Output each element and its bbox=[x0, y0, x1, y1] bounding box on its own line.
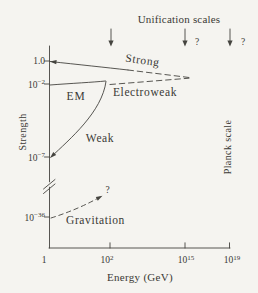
planck-scale-label: Planck scale bbox=[222, 120, 233, 175]
y-tick-10^-36-base: 10 bbox=[25, 213, 35, 223]
x-tick-10^15-base: 10 bbox=[178, 255, 188, 265]
y-tick-10^-36-exponent: −36 bbox=[34, 211, 45, 219]
y-tick-10^-7-base: 10 bbox=[28, 153, 38, 163]
gravitation-question-mark: ? bbox=[106, 185, 110, 195]
weak-label: Weak bbox=[86, 132, 114, 144]
x-tick-1: 1 bbox=[42, 255, 47, 265]
x-tick-10^2-exponent: 2 bbox=[110, 254, 114, 262]
y-tick-10^-2-exponent: −2 bbox=[38, 78, 46, 86]
em-label: EM bbox=[66, 90, 85, 102]
unification-scales-heading: Unification scales bbox=[138, 13, 221, 25]
x-axis-title: Energy (GeV) bbox=[107, 271, 173, 284]
y-tick-1.0: 1.0 bbox=[33, 56, 45, 66]
electroweak-label: Electroweak bbox=[113, 86, 177, 98]
y-axis-title: Strength bbox=[17, 113, 28, 150]
x-tick-10^19-base: 10 bbox=[224, 255, 234, 265]
y-tick-10^-2-base: 10 bbox=[28, 80, 38, 90]
figure-background bbox=[0, 0, 258, 293]
question-mark-arrow-2: ? bbox=[195, 37, 199, 47]
x-tick-10^19-exponent: 19 bbox=[233, 254, 241, 262]
gravitation-label: Gravitation bbox=[66, 214, 125, 226]
unification-of-forces-figure: Unification scales ? ? 1.0 10−2 10−7 10−… bbox=[0, 0, 258, 293]
question-mark-arrow-3: ? bbox=[241, 37, 245, 47]
x-tick-10^2-base: 10 bbox=[101, 255, 111, 265]
y-tick-10^-7-exponent: −7 bbox=[38, 151, 46, 159]
x-tick-10^15-exponent: 15 bbox=[187, 254, 195, 262]
